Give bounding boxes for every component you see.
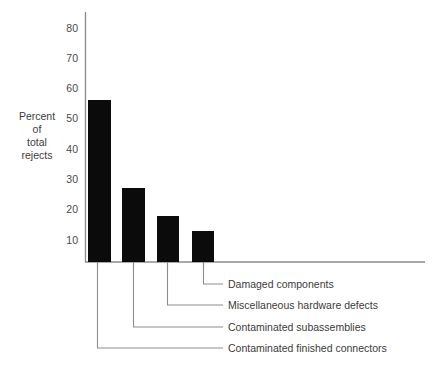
callout-label-contaminated-subassemblies: Contaminated subassemblies bbox=[228, 321, 366, 333]
y-tick-60: 60 bbox=[66, 82, 78, 94]
y-axis-tick-labels: 80 70 60 50 40 30 20 10 bbox=[66, 22, 78, 246]
y-tick-50: 50 bbox=[66, 112, 78, 124]
bar-damaged-components bbox=[192, 231, 214, 262]
pareto-chart: Percent of total rejects 80 70 60 50 40 … bbox=[0, 0, 435, 367]
bar-contaminated-subassemblies bbox=[122, 188, 145, 262]
y-tick-80: 80 bbox=[66, 22, 78, 34]
y-axis-title: Percent of total rejects bbox=[19, 110, 55, 161]
callout-leader-lines bbox=[98, 262, 224, 348]
callout-label-damaged-components: Damaged components bbox=[228, 278, 334, 290]
chart-canvas: Percent of total rejects 80 70 60 50 40 … bbox=[0, 0, 435, 367]
leader-line-contaminated-subassemblies bbox=[134, 262, 224, 327]
bar-contaminated-finished-connectors bbox=[88, 100, 111, 262]
y-tick-30: 30 bbox=[66, 173, 78, 185]
callout-label-miscellaneous-hardware-defects: Miscellaneous hardware defects bbox=[228, 299, 378, 311]
x-axis-tick-marks bbox=[98, 262, 204, 269]
callout-labels: Damaged components Miscellaneous hardwar… bbox=[228, 278, 387, 354]
bar-series bbox=[88, 100, 214, 262]
y-tick-70: 70 bbox=[66, 52, 78, 64]
y-axis-title-line-3: total bbox=[27, 136, 47, 148]
y-tick-40: 40 bbox=[66, 143, 78, 155]
callout-label-contaminated-finished-connectors: Contaminated finished connectors bbox=[228, 342, 387, 354]
y-tick-20: 20 bbox=[66, 203, 78, 215]
y-axis-title-line-2: of bbox=[33, 123, 42, 135]
y-tick-10: 10 bbox=[66, 234, 78, 246]
y-axis-title-line-4: rejects bbox=[22, 149, 53, 161]
bar-miscellaneous-hardware-defects bbox=[157, 216, 179, 262]
leader-line-damaged-components bbox=[204, 262, 224, 284]
y-axis-title-line-1: Percent bbox=[19, 110, 55, 122]
